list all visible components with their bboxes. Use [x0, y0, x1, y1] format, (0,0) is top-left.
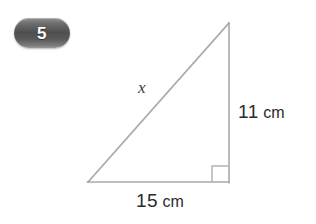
right-angle-marker-icon [212, 166, 228, 182]
vertical-leg-value: 11 [238, 101, 259, 122]
question-number-badge: 5 [14, 18, 70, 48]
base-leg-value: 15 [136, 190, 158, 211]
vertical-leg-unit: cm [259, 104, 285, 121]
base-leg-unit: cm [158, 193, 184, 210]
base-leg-label: 15 cm [136, 190, 184, 212]
vertical-leg-label: 11 cm [238, 101, 285, 123]
hypotenuse-label: x [138, 78, 146, 98]
hypotenuse-line [88, 23, 229, 182]
question-number-label: 5 [37, 25, 47, 42]
